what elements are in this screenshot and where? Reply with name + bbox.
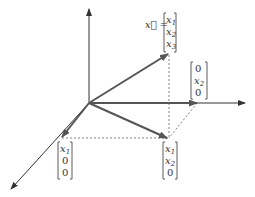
label-x2-component: 0 x2 0 [191,62,207,99]
label-x1-component: x1 0 0 [58,142,72,179]
vector-x [89,54,168,103]
label-projection: x1 x2 0 [163,142,177,179]
svg-text:0: 0 [195,63,201,74]
svg-text:0: 0 [195,87,201,98]
svg-text:x3: x3 [166,38,177,51]
vector-x1-component [62,103,89,137]
svg-text:x⃗ =: x⃗ = [145,19,168,30]
x-axis [11,103,89,189]
svg-text:0: 0 [62,155,68,166]
svg-text:0: 0 [62,167,68,178]
svg-text:0: 0 [167,167,173,178]
diagram-canvas: x⃗ = x1 x2 x3 0 x2 0 x1 0 0 x1 x2 0 [0,0,255,197]
dashed-line-x2 [169,103,197,138]
label-vector-x: x⃗ = x1 x2 x3 [145,13,177,52]
vector-diagram: x⃗ = x1 x2 x3 0 x2 0 x1 0 0 x1 x2 0 [0,0,255,197]
vector-projection [89,103,167,138]
